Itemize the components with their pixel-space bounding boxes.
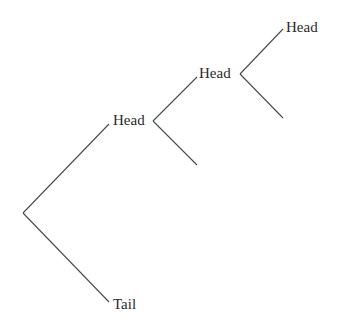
- branch-head-head-to-blank: [240, 74, 283, 118]
- probability-tree-diagram: Head Tail Head Head: [0, 0, 342, 328]
- node-label-level2-head: Head: [199, 65, 231, 81]
- node-label-level1-head: Head: [113, 112, 145, 128]
- branch-root-to-tail: [23, 213, 109, 302]
- branch-head-to-blank: [153, 121, 197, 165]
- branch-head-head-to-head: [240, 29, 283, 74]
- node-label-level1-tail: Tail: [113, 296, 136, 312]
- branch-head-to-head: [153, 77, 197, 121]
- branch-root-to-head: [23, 124, 109, 213]
- node-label-level3-head: Head: [286, 19, 318, 35]
